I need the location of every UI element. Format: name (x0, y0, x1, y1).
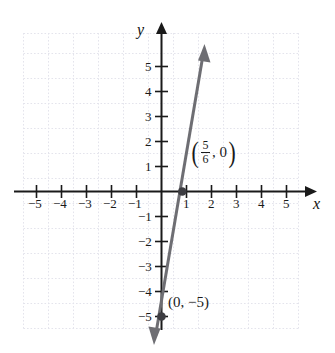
fraction-five-sixths: 5 6 (200, 139, 211, 166)
x-tick-label-1: 1 (183, 197, 190, 210)
x-tick-label-4: 4 (258, 197, 265, 210)
x-tick-label--4: −4 (53, 197, 67, 210)
y-tick-label-3: 3 (145, 110, 152, 123)
y-intercept-annotation: (0, −5) (168, 295, 209, 310)
close-paren: ) (228, 140, 235, 165)
y-tick-label-2: 2 (145, 135, 152, 148)
x-axis-label: x (313, 196, 320, 212)
x-tick-label--3: −3 (78, 197, 92, 210)
x-intercept-y-value: , 0 (211, 145, 227, 160)
y-tick-label--5: −5 (138, 310, 152, 323)
y-tick-label-4: 4 (145, 85, 152, 98)
point-y-intercept (157, 312, 166, 321)
fraction-numerator: 5 (203, 139, 209, 151)
y-tick-label--4: −4 (138, 285, 152, 298)
x-tick-label-3: 3 (233, 197, 240, 210)
point-x-intercept (178, 187, 187, 196)
y-tick-label-5: 5 (145, 60, 152, 73)
x-tick-label--2: −2 (103, 197, 117, 210)
y-tick-label-1: 1 (145, 160, 152, 173)
x-intercept-annotation: ( 5 6 , 0 ) (190, 139, 237, 166)
y-axis-arrow (156, 22, 167, 34)
x-intercept-fraction-group: ( 5 6 , 0 ) (190, 139, 237, 166)
open-paren: ( (191, 140, 198, 165)
x-tick-label-5: 5 (283, 197, 290, 210)
y-tick-label--3: −3 (138, 260, 152, 273)
y-tick-label--2: −2 (138, 235, 152, 248)
y-tick-label--1: −1 (138, 210, 152, 223)
fraction-denominator: 6 (203, 153, 209, 165)
x-tick-label--5: −5 (28, 197, 42, 210)
line-arrow-down (149, 327, 161, 346)
y-axis-label: y (137, 22, 144, 38)
graph-figure: y x −5 −4 −3 −2 −1 1 2 3 4 5 5 4 3 2 1 −… (0, 0, 335, 353)
x-tick-label-2: 2 (208, 197, 215, 210)
